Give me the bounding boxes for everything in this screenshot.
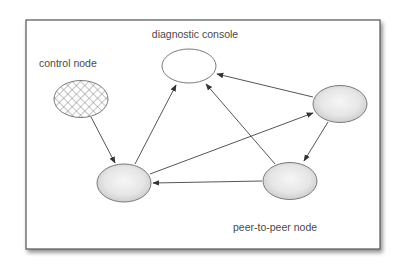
diagram-canvas: diagnostic console control node peer-to-… — [0, 0, 404, 266]
peer-node-bottom-right — [263, 163, 317, 200]
diagnostic-console-node — [162, 49, 216, 83]
network-diagram: diagnostic console control node peer-to-… — [0, 0, 404, 266]
control-node — [54, 81, 108, 118]
label-control-node: control node — [39, 57, 97, 69]
label-peer-to-peer-node: peer-to-peer node — [233, 221, 317, 233]
peer-node-right — [313, 86, 367, 123]
label-diagnostic-console: diagnostic console — [152, 28, 239, 40]
peer-node-bottom-left — [97, 164, 151, 202]
